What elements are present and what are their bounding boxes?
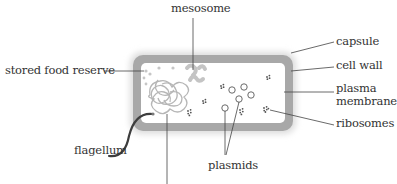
label-stored-food-reserve: stored food reserve bbox=[5, 64, 115, 77]
label-capsule: capsule bbox=[336, 35, 379, 48]
leader-capsule bbox=[291, 42, 334, 53]
label-mesosome: mesosome bbox=[171, 2, 230, 15]
label-plasmids: plasmids bbox=[208, 159, 258, 172]
leader-cell-wall bbox=[291, 67, 334, 71]
label-ribosomes: ribosomes bbox=[336, 117, 394, 130]
label-cell-wall: cell wall bbox=[336, 59, 383, 72]
label-flagellum: flagellum bbox=[74, 144, 127, 157]
label-plasma-membrane-line2: membrane bbox=[336, 95, 397, 108]
